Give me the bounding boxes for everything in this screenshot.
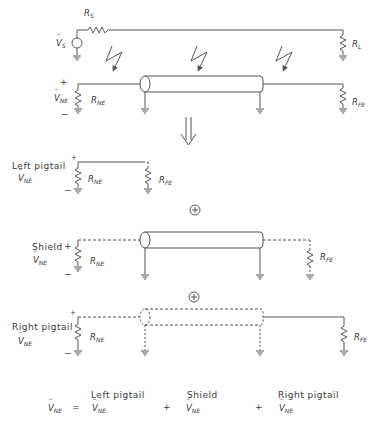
shield-minus: − xyxy=(64,270,72,279)
equation-plus-1: + xyxy=(163,403,171,412)
load-resistor-label: RL xyxy=(352,40,361,50)
left-pigtail-voltage: VNE xyxy=(18,174,32,184)
equation-equals: = xyxy=(72,403,80,412)
near-end-minus: − xyxy=(61,110,69,119)
shield-far-resistor: RFE xyxy=(320,253,333,263)
right-pigtail-far-resistor: RFE xyxy=(354,333,367,343)
left-pigtail-far-resistor: RFE xyxy=(159,176,172,186)
left-pigtail-plus: + xyxy=(71,155,77,162)
equation-term-left-symbol: VNE xyxy=(92,404,106,414)
right-pigtail-voltage: VNE xyxy=(18,337,32,347)
far-end-resistor-label: RFE xyxy=(352,98,365,108)
equation-lhs: VNE xyxy=(48,404,62,414)
right-pigtail-near-resistor: RNE xyxy=(90,333,104,343)
right-pigtail-minus: − xyxy=(64,349,72,358)
shield-plus: + xyxy=(64,242,72,251)
equation-term-shield-symbol: VNE xyxy=(186,404,200,414)
equation-term-right-label: Right pigtail xyxy=(278,391,339,400)
near-end-resistor-label: RNE xyxy=(91,96,105,106)
near-end-plus: + xyxy=(60,78,68,87)
shield-voltage: VNE xyxy=(33,256,47,266)
left-pigtail-near-resistor: RNE xyxy=(88,175,102,185)
source-voltage-label: VS xyxy=(56,39,66,49)
near-end-voltage-label: VNE xyxy=(54,94,68,104)
equation-plus-2: + xyxy=(255,403,263,412)
equation-term-left-label: Left pigtail xyxy=(91,391,145,400)
shield-near-resistor: RNE xyxy=(90,257,104,267)
source-resistor-label: RS xyxy=(84,9,94,19)
equation-term-shield-label: Shield xyxy=(187,391,218,400)
right-pigtail-plus: + xyxy=(70,310,76,317)
circuit-diagram xyxy=(0,0,389,426)
equation-term-right-symbol: VNE xyxy=(279,404,293,414)
left-pigtail-minus: − xyxy=(64,186,72,195)
